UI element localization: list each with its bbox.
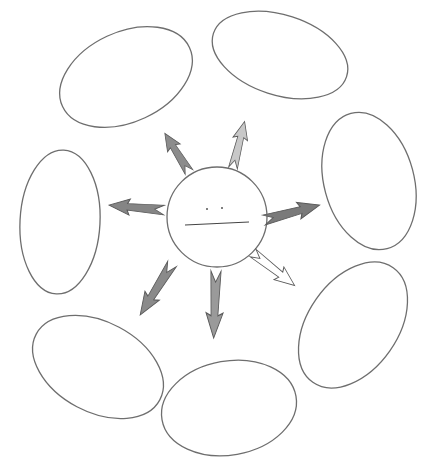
diagram-svg <box>0 0 436 474</box>
bubble-top-right <box>201 0 359 115</box>
center-circle <box>167 167 267 267</box>
bubble-bottom-left <box>15 294 181 439</box>
arrow-to-top-right <box>226 120 252 170</box>
arrow-to-bottom-right <box>248 247 299 292</box>
cluster-diagram <box>0 0 436 474</box>
arrow-to-left <box>108 197 164 218</box>
arrow-to-top-left <box>158 129 195 176</box>
bubble-bottom <box>154 350 304 466</box>
arrow-to-right <box>262 197 322 228</box>
arrow-to-bottom-left <box>133 259 179 319</box>
center-dot-right <box>221 207 223 209</box>
center-dot-left <box>206 208 208 210</box>
bubble-bottom-right <box>276 242 430 408</box>
bubble-left <box>16 148 103 296</box>
bubble-right <box>307 102 430 261</box>
bubble-top-left <box>44 7 209 148</box>
arrow-to-bottom <box>205 271 224 339</box>
